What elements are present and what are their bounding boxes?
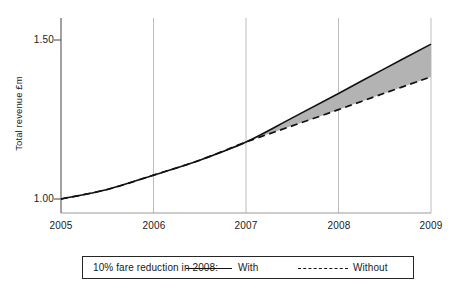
legend-swatch-without-dashed-line bbox=[298, 268, 348, 269]
legend-box: 10% fare reduction in 2008: With Without bbox=[82, 256, 414, 279]
plot-area bbox=[0, 0, 452, 288]
legend-label-with: With bbox=[238, 262, 258, 273]
legend-label-without: Without bbox=[353, 262, 388, 273]
chart-container: Total revenue £m 1.50 1.00 2005 2006 200… bbox=[0, 0, 452, 288]
legend-swatch-with-solid-line bbox=[186, 268, 232, 269]
legend-content: 10% fare reduction in 2008: With Without bbox=[83, 257, 413, 278]
gridlines-group bbox=[154, 18, 432, 213]
